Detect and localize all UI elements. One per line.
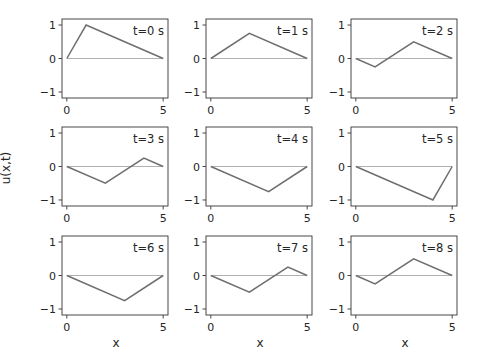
- y-tick-label: 1: [193, 236, 200, 249]
- x-axis-label: x: [256, 336, 263, 350]
- y-tick-label: 0: [338, 53, 345, 66]
- y-tick-label: 0: [49, 53, 56, 66]
- subplot-grid-figure: −10105t=0 s−10105t=1 s−10105t=2 s−10105t…: [0, 0, 481, 364]
- x-tick-label: 0: [207, 104, 214, 117]
- subplot: −10105t=3 s: [40, 127, 168, 225]
- y-tick-label: 0: [49, 270, 56, 283]
- subplot: −10105t=0 s: [40, 19, 168, 117]
- y-tick-label: 1: [338, 236, 345, 249]
- y-tick-label: 0: [338, 270, 345, 283]
- x-tick-label: 0: [207, 212, 214, 225]
- subplot: −10105t=5 s: [329, 127, 457, 225]
- x-tick-label: 0: [63, 321, 70, 334]
- y-tick-label: 1: [49, 236, 56, 249]
- y-tick-label: 1: [193, 127, 200, 140]
- subplot: −10105t=2 s: [329, 19, 457, 117]
- y-tick-label: −1: [40, 194, 56, 207]
- x-tick-label: 0: [352, 321, 359, 334]
- x-tick-label: 0: [63, 212, 70, 225]
- x-tick-label: 5: [160, 212, 167, 225]
- displacement-line: [67, 158, 163, 183]
- y-tick-label: 0: [193, 161, 200, 174]
- y-axis-label: u(x,t): [0, 152, 13, 185]
- x-tick-label: 5: [449, 212, 456, 225]
- time-label: t=2 s: [422, 24, 453, 38]
- x-axis-label: x: [401, 336, 408, 350]
- y-tick-label: 0: [338, 161, 345, 174]
- y-tick-label: −1: [40, 86, 56, 99]
- time-label: t=7 s: [277, 241, 308, 255]
- y-tick-label: 0: [193, 53, 200, 66]
- x-tick-label: 0: [207, 321, 214, 334]
- y-tick-label: 0: [193, 270, 200, 283]
- y-tick-label: 0: [49, 161, 56, 174]
- x-tick-label: 5: [449, 321, 456, 334]
- subplot: −10105t=1 s: [184, 19, 312, 117]
- y-tick-label: 1: [338, 19, 345, 32]
- x-tick-label: 5: [304, 321, 311, 334]
- subplot: −10105t=8 s: [329, 236, 457, 334]
- time-label: t=3 s: [133, 132, 164, 146]
- x-tick-label: 5: [304, 104, 311, 117]
- y-tick-label: 1: [338, 127, 345, 140]
- x-tick-label: 5: [449, 104, 456, 117]
- time-label: t=8 s: [422, 241, 453, 255]
- time-label: t=4 s: [277, 132, 308, 146]
- subplot-panels: −10105t=0 s−10105t=1 s−10105t=2 s−10105t…: [40, 19, 457, 334]
- x-tick-label: 0: [352, 212, 359, 225]
- y-tick-label: −1: [184, 303, 200, 316]
- y-tick-label: −1: [329, 194, 345, 207]
- subplot: −10105t=7 s: [184, 236, 312, 334]
- subplot: −10105t=6 s: [40, 236, 168, 334]
- y-tick-label: 1: [193, 19, 200, 32]
- x-tick-label: 5: [304, 212, 311, 225]
- displacement-line: [356, 259, 452, 284]
- displacement-line: [211, 267, 307, 292]
- y-tick-label: 1: [49, 127, 56, 140]
- displacement-line: [356, 167, 452, 200]
- x-tick-label: 0: [352, 104, 359, 117]
- time-label: t=6 s: [133, 241, 164, 255]
- subplot: −10105t=4 s: [184, 127, 312, 225]
- x-axis-label: x: [112, 336, 119, 350]
- displacement-line: [67, 276, 163, 301]
- x-tick-label: 0: [63, 104, 70, 117]
- x-tick-label: 5: [160, 104, 167, 117]
- displacement-line: [356, 42, 452, 67]
- time-label: t=1 s: [277, 24, 308, 38]
- x-tick-label: 5: [160, 321, 167, 334]
- y-tick-label: 1: [49, 19, 56, 32]
- time-label: t=5 s: [422, 132, 453, 146]
- y-tick-label: −1: [184, 194, 200, 207]
- displacement-line: [211, 167, 307, 192]
- y-tick-label: −1: [329, 303, 345, 316]
- y-tick-label: −1: [40, 303, 56, 316]
- time-label: t=0 s: [133, 24, 164, 38]
- y-tick-label: −1: [329, 86, 345, 99]
- y-tick-label: −1: [184, 86, 200, 99]
